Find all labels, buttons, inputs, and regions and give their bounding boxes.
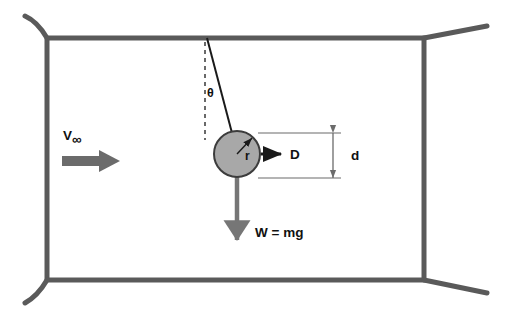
sphere-group: r [214,131,260,177]
wind-tunnel-sphere-diagram: V∞ θ d W = mg r [0,0,507,318]
radius-label: r [245,149,250,163]
diameter-label: d [351,148,359,163]
theta-angle-label: θ [207,86,214,100]
drag-force-label: D [290,147,300,162]
weight-label: W = mg [255,225,303,240]
physics-diagram-canvas: V∞ θ d W = mg r [0,0,507,318]
